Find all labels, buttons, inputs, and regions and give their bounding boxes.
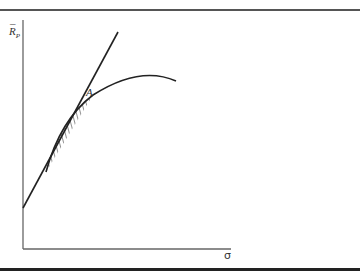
point-a-label: A [86, 86, 93, 98]
y-axis-label-bar: ¯ [10, 22, 16, 34]
concave-curve [46, 75, 176, 172]
bottom-rule [0, 268, 360, 271]
straight-line [23, 32, 118, 208]
y-axis-label: ¯RP [9, 25, 20, 40]
diagram-canvas [0, 0, 360, 274]
y-axis-label-subscript: P [16, 32, 20, 40]
hatched-region [46, 95, 93, 172]
x-axis-label: σ [224, 249, 231, 262]
